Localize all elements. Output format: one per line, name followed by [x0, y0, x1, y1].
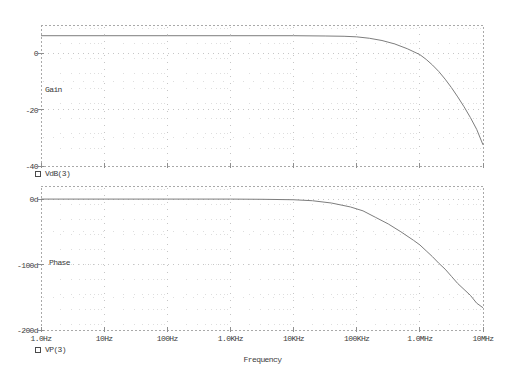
- phase-trace-legend-label: VP(3): [45, 345, 66, 354]
- frequency-tick-label: 10MHz: [461, 334, 505, 343]
- frequency-tick-label: 100KHz: [335, 334, 379, 343]
- phase-trace-legend[interactable]: VP(3): [35, 345, 66, 354]
- gain-curve: [41, 36, 483, 145]
- frequency-tick-label: 100Hz: [145, 334, 189, 343]
- phase-panel-label: Phase: [49, 258, 70, 267]
- phase-trace-square-marker-icon: [35, 347, 41, 353]
- frequency-axis-label: Frequency: [220, 355, 305, 364]
- gain-trace-legend-label: VdB(3): [45, 169, 70, 178]
- frequency-tick-label: 1.0KHz: [208, 334, 252, 343]
- phase-ytick-label: -100d: [0, 261, 38, 270]
- panel-border: [41, 186, 483, 330]
- gain-trace-legend[interactable]: VdB(3): [35, 169, 70, 178]
- frequency-tick-label: 1.0Hz: [19, 334, 63, 343]
- bode-plot-window: Gain Phase VdB(3) VP(3) Frequency 0-20-4…: [0, 0, 506, 376]
- gain-ytick-label: -40: [0, 162, 38, 171]
- frequency-tick-label: 10Hz: [82, 334, 126, 343]
- gain-trace-square-marker-icon: [35, 171, 41, 177]
- gain-panel-label: Gain: [45, 85, 62, 94]
- frequency-tick-label: 1.0MHz: [398, 334, 442, 343]
- gain-ytick-label: 0: [0, 49, 38, 58]
- gain-ytick-label: -20: [0, 106, 38, 115]
- plot-canvas: [0, 0, 506, 376]
- phase-curve: [41, 199, 483, 308]
- panel-border: [41, 25, 483, 166]
- frequency-tick-label: 10KHz: [272, 334, 316, 343]
- phase-ytick-label: 0d: [0, 195, 38, 204]
